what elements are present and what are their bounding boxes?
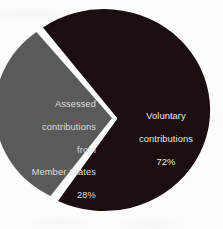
pie-chart-figure: Voluntary contributions 72% Assessed con…: [0, 0, 223, 229]
pie-chart-canvas: [0, 0, 223, 229]
